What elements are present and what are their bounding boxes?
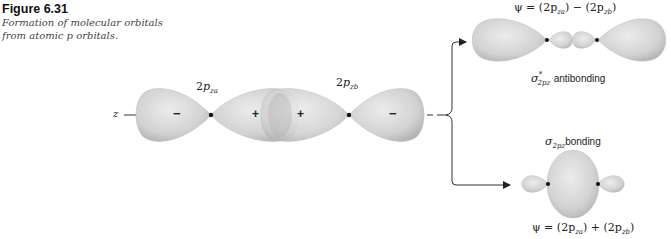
lobe-b-negative: [349, 89, 424, 142]
orbital-b-label: 2pzb: [336, 76, 358, 91]
sign-a-left: −: [173, 106, 181, 121]
bonding-label: σ2pzbonding: [545, 135, 601, 150]
antibonding-label: σ*2pz antibonding: [531, 70, 605, 87]
antibonding-equation: ψ = (2pza) − (2pzb): [514, 1, 616, 16]
overlap-region: [268, 93, 292, 137]
z-axis-label: z: [113, 108, 118, 119]
antibonding-orbital: [472, 19, 666, 61]
bonding-orbital: [522, 150, 625, 218]
orbital-a-label: 22ppza: [196, 80, 218, 95]
orbital-diagram: [0, 0, 671, 239]
sign-a-right: +: [252, 107, 259, 121]
arrow-to-antibonding: [446, 42, 466, 115]
nucleus-b: [347, 113, 351, 117]
sign-b-left: +: [297, 107, 304, 121]
nucleus-a: [209, 113, 213, 117]
sign-b-right: −: [389, 106, 397, 121]
bonding-equation: ψ = (2pza) + (2pzb): [532, 221, 634, 236]
arrow-to-bonding: [446, 115, 510, 185]
